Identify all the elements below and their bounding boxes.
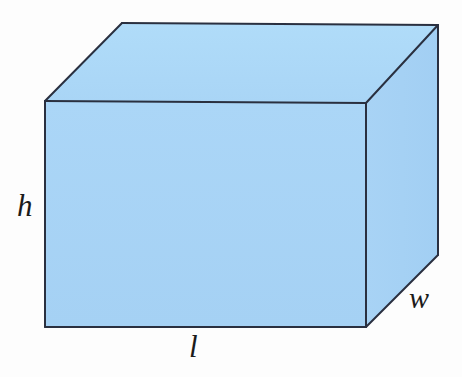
prism-drawing — [0, 0, 462, 377]
prism-front-face — [45, 101, 366, 327]
length-label: l — [189, 331, 198, 362]
rectangular-prism-figure: h l w — [0, 0, 462, 377]
height-label: h — [17, 190, 33, 221]
width-label: w — [409, 283, 429, 313]
